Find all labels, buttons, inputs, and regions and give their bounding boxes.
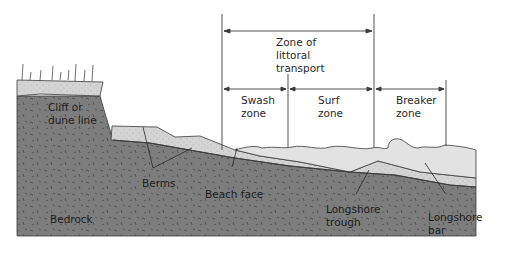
breaker-line-2: zone (396, 107, 421, 119)
bedrock-label: Bedrock (50, 213, 94, 225)
swash-zone-label: Swash zone (241, 94, 278, 119)
bar-line-2: bar (428, 224, 446, 236)
trough-line-2: trough (326, 216, 361, 228)
grass-icon (22, 64, 93, 81)
littoral-line-1: Zone of (276, 36, 316, 48)
littoral-line-2: littoral (276, 49, 310, 61)
beach-face-label: Beach face (205, 188, 263, 200)
cliff-line-1: Cliff or (48, 101, 83, 113)
coastal-profile-diagram: Zone of littoral transport Swash zone Su… (0, 0, 510, 260)
trough-line-1: Longshore (326, 203, 381, 215)
swash-line-2: zone (241, 107, 266, 119)
berms-label: Berms (142, 177, 176, 189)
surf-zone-label: Surf zone (318, 94, 343, 119)
littoral-line-3: transport (276, 62, 325, 74)
littoral-zone-label: Zone of littoral transport (276, 36, 325, 74)
cliff-top-sediment (17, 80, 103, 96)
zone-boundaries (222, 14, 446, 150)
cliff-line-2: dune line (48, 114, 97, 126)
surf-line-2: zone (318, 107, 343, 119)
zone-arrows (224, 29, 444, 91)
surf-line-1: Surf (318, 94, 340, 106)
bar-line-1: Longshore (428, 211, 483, 223)
swash-line-1: Swash (241, 94, 275, 106)
breaker-line-1: Breaker (396, 94, 437, 106)
breaker-zone-label: Breaker zone (396, 94, 440, 119)
